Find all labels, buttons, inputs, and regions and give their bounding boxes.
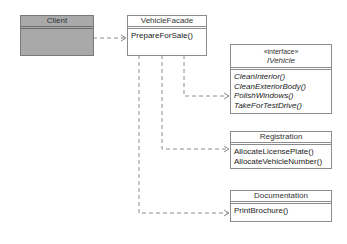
operation: PrintBrochure() <box>234 206 328 216</box>
class-name: VehicleFacade <box>128 16 206 29</box>
interface-ivehicle[interactable]: «interface» IVehicle CleanInterior() Cle… <box>230 44 332 114</box>
operation: AllocateLicensePlate() <box>234 147 328 157</box>
class-registration[interactable]: Registration AllocateLicensePlate() Allo… <box>230 131 332 169</box>
operation: AllocateVehicleNumber() <box>234 157 328 167</box>
dependency-facade-ivehicle <box>184 55 228 96</box>
class-documentation[interactable]: Documentation PrintBrochure() <box>230 190 332 222</box>
class-name: Documentation <box>231 191 331 204</box>
dependency-facade-registration <box>162 55 228 149</box>
operations: AllocateLicensePlate() AllocateVehicleNu… <box>231 145 331 168</box>
operation: CleanInterior() <box>234 72 328 82</box>
class-vehicle-facade[interactable]: VehicleFacade PrepareForSale() <box>127 15 207 56</box>
operation: TakeForTestDrive() <box>234 101 328 111</box>
class-name: Client <box>21 16 93 29</box>
operations: CleanInterior() CleanExteriorBody() Poli… <box>231 70 331 112</box>
stereotype-label: «interface» <box>231 47 331 56</box>
operations: PrintBrochure() <box>231 204 331 218</box>
operation: PrepareForSale() <box>131 31 203 41</box>
arrowhead-ivehicle <box>224 93 229 99</box>
interface-header: «interface» IVehicle <box>231 45 331 70</box>
operations: PrepareForSale() <box>128 29 206 43</box>
class-name: IVehicle <box>231 56 331 66</box>
class-name: Registration <box>231 132 331 145</box>
class-client[interactable]: Client <box>20 15 94 56</box>
operation: PolishWindows() <box>234 91 328 101</box>
operation: CleanExteriorBody() <box>234 82 328 92</box>
